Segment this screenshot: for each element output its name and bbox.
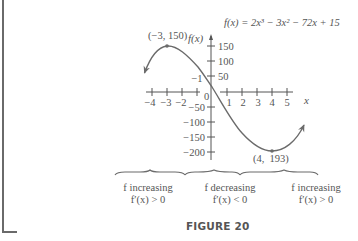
interval-monotonicity: f increasing — [276, 182, 356, 194]
interval-label-decreasing: f decreasing f′(x) < 0 — [190, 182, 270, 206]
x-tick-label: −1 — [191, 73, 202, 84]
interval-monotonicity: f decreasing — [190, 182, 270, 194]
y-tick-label: 100 — [218, 56, 234, 67]
local-max-label: (−3, 150) — [148, 30, 188, 42]
interval-label-increasing-left: f increasing f′(x) > 0 — [108, 182, 188, 206]
y-tick-label: 150 — [218, 41, 234, 52]
local-min-label: (4, 193) — [253, 153, 289, 165]
interval-braces — [115, 170, 318, 175]
x-axis-label: x — [303, 94, 309, 106]
interval-monotonicity: f increasing — [108, 182, 188, 194]
origin-label: 0 — [204, 91, 209, 102]
local-max-point — [165, 44, 169, 48]
x-tick-label: 5 — [284, 97, 289, 108]
y-tick-label: 50 — [218, 71, 229, 82]
y-tick-label: −50 — [189, 102, 205, 113]
x-tick-label: −2 — [175, 97, 186, 108]
y-axis-label: f(x) — [188, 32, 204, 45]
x-tick-label: 2 — [240, 97, 245, 108]
x-tick-label: 1 — [226, 97, 231, 108]
x-tick-label: −3 — [160, 97, 171, 108]
interval-derivative-sign: f′(x) < 0 — [190, 194, 270, 206]
interval-derivative-sign: f′(x) > 0 — [108, 194, 188, 206]
x-tick-label: −4 — [144, 97, 156, 108]
interval-label-increasing-right: f increasing f′(x) > 0 — [276, 182, 356, 206]
y-tick-label: −200 — [183, 147, 205, 158]
interval-derivative-sign: f′(x) > 0 — [276, 194, 356, 206]
y-tick-label: −150 — [183, 132, 205, 143]
equation-label: f(x) = 2x³ − 3x² − 72x + 15 — [224, 17, 340, 29]
x-tick-label: 4 — [269, 97, 275, 108]
figure-caption: FIGURE 20 — [186, 220, 250, 232]
y-tick-label: −100 — [183, 117, 205, 128]
x-tick-label: 3 — [255, 97, 260, 108]
